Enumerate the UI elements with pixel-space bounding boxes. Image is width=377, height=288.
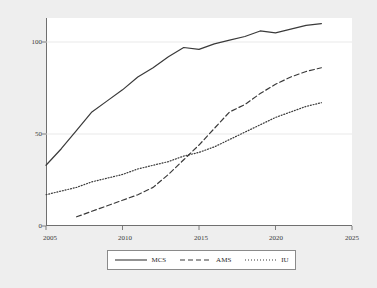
legend-entry-mcs: MCS	[114, 256, 166, 264]
y-tick-label-100: 100	[20, 38, 42, 46]
axis-ticks	[42, 42, 352, 230]
x-tick-label-2020: 2020	[261, 234, 291, 242]
series-line-ams	[77, 68, 322, 217]
legend-swatch-solid	[114, 256, 148, 264]
x-tick-label-2015: 2015	[186, 234, 216, 242]
legend-swatch-dashed	[179, 256, 213, 264]
series-line-mcs	[46, 24, 321, 166]
gridlines	[46, 42, 352, 134]
x-tick-label-2005: 2005	[35, 234, 65, 242]
legend-entry-ams: AMS	[179, 256, 231, 264]
series-lines	[46, 24, 321, 217]
chart-legend: MCS AMS IU	[107, 250, 296, 270]
legend-label-mcs: MCS	[151, 256, 166, 264]
y-tick-label-50: 50	[20, 130, 42, 138]
legend-label-iu: IU	[281, 256, 288, 264]
legend-swatch-dotted	[244, 256, 278, 264]
line-chart: 100 50 0 2005 2010 2015 2020 2025 MCS AM…	[0, 0, 377, 288]
y-tick-label-0: 0	[20, 222, 42, 230]
legend-label-ams: AMS	[216, 256, 231, 264]
chart-svg	[0, 0, 377, 288]
x-tick-label-2025: 2025	[337, 234, 367, 242]
x-tick-label-2010: 2010	[110, 234, 140, 242]
legend-entry-iu: IU	[244, 256, 288, 264]
